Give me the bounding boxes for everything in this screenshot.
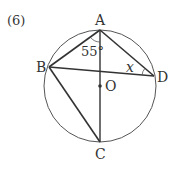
center-point-o <box>98 84 102 88</box>
label-o: O <box>105 78 116 94</box>
segment-bc <box>49 67 100 142</box>
label-d: D <box>157 69 168 85</box>
label-b: B <box>36 59 46 75</box>
segment-bd <box>49 67 154 76</box>
label-c: C <box>95 146 106 162</box>
problem-number: (6) <box>7 13 25 28</box>
angle-arc-d <box>142 68 145 75</box>
geometry-diagram: (6) A B C D O 55° x <box>0 0 176 169</box>
label-a: A <box>94 12 106 28</box>
angle-label-55: 55° <box>81 44 104 59</box>
angle-arc-a <box>91 38 100 42</box>
angle-label-x: x <box>126 59 134 75</box>
